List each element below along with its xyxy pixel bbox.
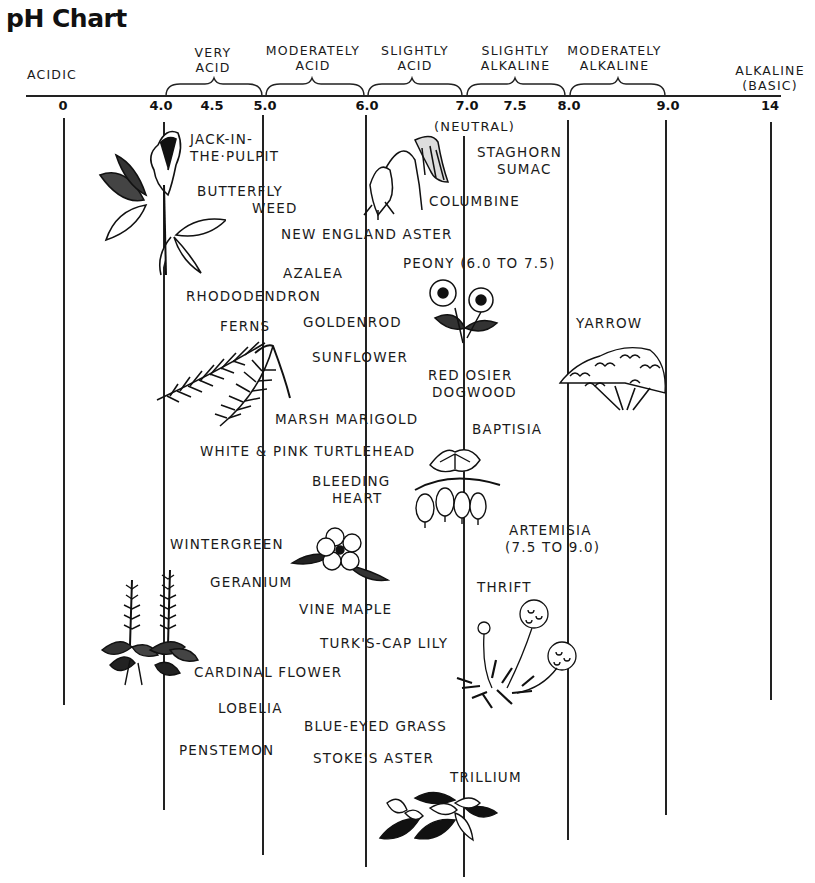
label-staghorn-sumac: STAGHORN SUMAC <box>477 144 562 178</box>
label-rhododendron: RHODODENDRON <box>186 288 321 305</box>
label-columbine: COLUMBINE <box>429 193 520 210</box>
label-cardinal-flower: CARDINAL FLOWER <box>194 664 342 681</box>
tick-8-0: 8.0 <box>557 98 580 113</box>
label-azalea: AZALEA <box>283 265 343 282</box>
label-trillium: TRILLIUM <box>450 769 522 786</box>
label-artemisia: ARTEMISIA (7.5 TO 9.0) <box>505 522 600 556</box>
label-ferns: FERNS <box>220 318 270 335</box>
brace-slightly-acid <box>368 78 462 96</box>
label-peony: PEONY (6.0 TO 7.5) <box>403 255 555 272</box>
tick-7-0: 7.0 <box>455 98 478 113</box>
label-red-osier-dogwood: RED OSIER DOGWOOD <box>428 367 517 401</box>
tick-0: 0 <box>58 98 67 113</box>
label-new-england-aster: NEW ENGLAND ASTER <box>281 226 453 243</box>
label-lobelia: LOBELIA <box>218 700 283 717</box>
trillium-illustration <box>375 788 500 848</box>
label-geranium: GERANIUM <box>210 574 292 591</box>
tick-4-0: 4.0 <box>149 98 172 113</box>
brace-slightly-alkaline <box>467 78 565 96</box>
range-braces <box>0 0 815 100</box>
ferns-illustration <box>155 338 295 430</box>
bleeding-heart-illustration <box>410 440 505 530</box>
gridline-ph-14 <box>770 122 772 700</box>
label-goldenrod: GOLDENROD <box>303 314 402 331</box>
label-line: HEART <box>312 490 390 507</box>
label-butterfly-weed: BUTTERFLY WEED <box>197 183 298 217</box>
tick-6-0: 6.0 <box>355 98 378 113</box>
gridline-ph-0 <box>63 118 65 705</box>
label-line: BUTTERFLY <box>197 183 298 200</box>
label-line: (7.5 TO 9.0) <box>505 539 600 556</box>
label-line: JACK-IN- <box>190 131 279 148</box>
ph-axis-line <box>26 95 781 97</box>
brace-very-acid <box>166 78 262 96</box>
label-stokes-aster: STOKE'S ASTER <box>313 750 434 767</box>
gridline-ph-8-0 <box>567 120 569 840</box>
brace-moderately-alkaline <box>570 78 665 96</box>
label-penstemon: PENSTEMON <box>179 742 274 759</box>
label-baptisia: BAPTISIA <box>472 421 542 438</box>
tick-9-0: 9.0 <box>656 98 679 113</box>
peony-illustration <box>425 278 500 346</box>
label-turtlehead: WHITE & PINK TURTLEHEAD <box>200 443 415 460</box>
brace-moderately-acid <box>266 78 364 96</box>
gridline-ph-9-0 <box>665 120 667 815</box>
label-marsh-marigold: MARSH MARIGOLD <box>275 411 418 428</box>
tick-5-0: 5.0 <box>253 98 276 113</box>
label-line: DOGWOOD <box>428 384 517 401</box>
label-line: STAGHORN <box>477 144 562 161</box>
label-vine-maple: VINE MAPLE <box>299 601 392 618</box>
label-line: ARTEMISIA <box>505 522 600 539</box>
label-jack-in-the-pulpit: JACK-IN- THE·PULPIT <box>190 131 279 165</box>
label-thrift: THRIFT <box>477 579 532 596</box>
label-turks-cap-lily: TURK'S-CAP LILY <box>320 635 448 652</box>
label-line: BLEEDING <box>312 473 390 490</box>
tick-4-5: 4.5 <box>200 98 223 113</box>
label-bleeding-heart: BLEEDING HEART <box>312 473 390 507</box>
label-line: RED OSIER <box>428 367 517 384</box>
tick-7-5: 7.5 <box>503 98 526 113</box>
label-yarrow: YARROW <box>576 315 642 332</box>
cardinal-flower-illustration <box>100 565 200 690</box>
wintergreen-illustration <box>290 525 390 587</box>
thrift-illustration <box>452 598 587 718</box>
tick-14: 14 <box>761 98 779 113</box>
label-line: SUMAC <box>477 161 562 178</box>
label-blue-eyed-grass: BLUE-EYED GRASS <box>304 718 447 735</box>
yarrow-illustration <box>555 338 670 413</box>
label-wintergreen: WINTERGREEN <box>170 536 284 553</box>
label-sunflower: SUNFLOWER <box>312 349 408 366</box>
label-line: WEED <box>197 200 298 217</box>
label-line: THE·PULPIT <box>190 148 279 165</box>
